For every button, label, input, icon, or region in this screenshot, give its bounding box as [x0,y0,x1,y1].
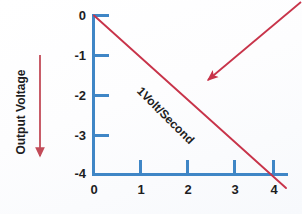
y-tick-label-0: 0 [60,8,86,23]
slope-annotation: 1Volt/Second [134,84,197,147]
x-tick-4 [272,160,275,174]
x-tick-label-0: 0 [84,182,104,197]
x-tick-1 [139,160,142,174]
x-tick-2 [186,160,189,174]
y-tick-label-2: -2 [60,88,86,103]
y-tick-label-3: -3 [60,128,86,143]
y-axis-title: Output Voltage [14,60,28,164]
y-tick-2 [95,94,109,97]
slope-callout-arrow [208,2,301,80]
x-tick-3 [233,160,236,174]
y-tick-1 [95,54,109,57]
x-axis-line [92,173,288,176]
y-tick-label-4: -4 [60,166,86,181]
x-tick-label-4: 4 [264,182,284,197]
x-tick-label-2: 2 [178,182,198,197]
x-tick-label-3: 3 [225,182,245,197]
ramp-line [94,16,286,189]
x-tick-label-1: 1 [131,182,151,197]
voltage-ramp-chart: Output Voltage 0 -1 -2 -3 -4 0 1 2 3 4 [0,0,302,214]
y-tick-label-1: -1 [60,48,86,63]
y-tick-3 [95,134,109,137]
y-tick-0 [95,14,109,17]
